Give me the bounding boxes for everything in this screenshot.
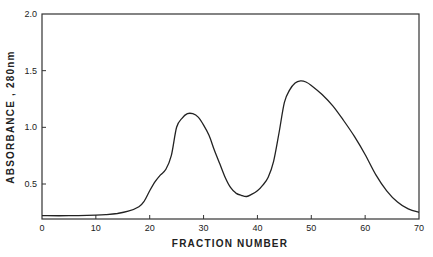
y-tick-label: 1.5 — [24, 66, 37, 76]
x-axis-title: FRACTION NUMBER — [172, 238, 288, 249]
x-tick-label: 0 — [39, 223, 44, 233]
x-tick-label: 10 — [91, 223, 101, 233]
x-tick-label: 60 — [360, 223, 370, 233]
x-tick-label: 70 — [414, 223, 424, 233]
absorbance-curve — [42, 81, 419, 216]
y-axis-ticks: 0.51.01.52.0 — [24, 9, 46, 189]
x-tick-label: 30 — [199, 223, 209, 233]
x-tick-label: 40 — [252, 223, 262, 233]
y-axis-title: ABSORBANCE , 280nm — [5, 50, 16, 183]
x-axis-ticks: 010203040506070 — [39, 215, 424, 233]
chromatography-chart: 010203040506070 0.51.01.52.0 FRACTION NU… — [0, 0, 433, 257]
y-tick-label: 2.0 — [24, 9, 37, 19]
y-tick-label: 0.5 — [24, 179, 37, 189]
x-tick-label: 50 — [306, 223, 316, 233]
x-tick-label: 20 — [145, 223, 155, 233]
y-tick-label: 1.0 — [24, 122, 37, 132]
